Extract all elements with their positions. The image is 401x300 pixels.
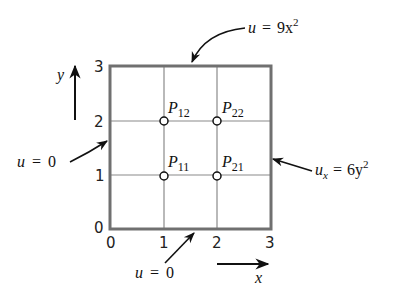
node-label-p21: P21 — [221, 153, 244, 174]
node-label-p22: P22 — [221, 99, 244, 120]
boundary-value-diagram: P12 P22 P11 P21 3 2 1 0 0 1 2 3 y x u=9x… — [0, 0, 401, 300]
grid-lines — [110, 66, 271, 229]
bottom-bc-arrow-icon — [165, 233, 194, 263]
node-label-p11: P11 — [167, 153, 189, 174]
x-axis-label: x — [254, 269, 262, 286]
node-label-p12: P12 — [167, 99, 190, 120]
top-boundary-condition: u=9x2 — [248, 16, 299, 36]
right-boundary-condition: ux=6y2 — [315, 158, 368, 181]
left-bc-arrow-icon — [70, 141, 107, 162]
left-boundary-condition: u=0 — [17, 153, 56, 170]
node-p12 — [160, 117, 168, 125]
y-tick-1: 1 — [95, 167, 105, 185]
y-tick-3: 3 — [94, 58, 104, 76]
node-p22 — [213, 117, 221, 125]
bottom-boundary-condition: u=0 — [135, 264, 174, 281]
top-bc-arrow-icon — [192, 28, 245, 62]
y-tick-2: 2 — [94, 113, 104, 131]
node-p21 — [213, 172, 221, 180]
grid-nodes — [160, 117, 221, 180]
x-tick-3: 3 — [265, 234, 275, 252]
right-bc-arrow-icon — [273, 159, 312, 171]
y-axis-label: y — [55, 66, 65, 84]
domain-border — [110, 66, 271, 229]
node-p11 — [160, 172, 168, 180]
x-tick-2: 2 — [212, 234, 222, 252]
x-tick-0: 0 — [106, 234, 116, 252]
x-tick-1: 1 — [159, 234, 169, 252]
y-tick-0: 0 — [94, 219, 104, 237]
